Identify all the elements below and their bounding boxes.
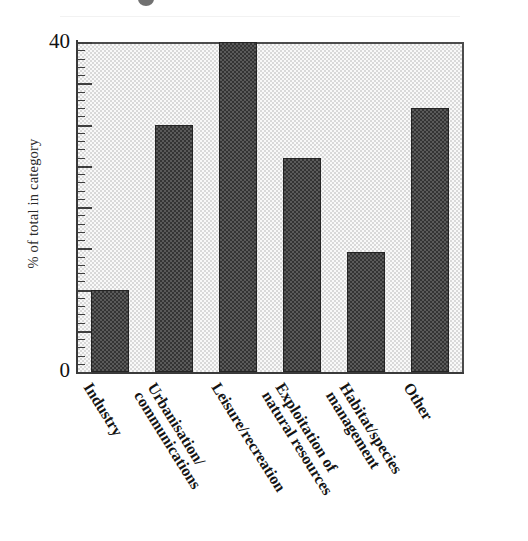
bar [283,158,321,373]
y-axis-title: % of total in category [25,109,42,299]
x-axis-tick-labels: IndustryUrbanisation/communicationsLeisu… [0,376,528,541]
bar [347,252,385,372]
x-axis-label: Other [400,380,435,423]
bar [411,108,449,372]
x-axis-label: Urbanisation/communications [130,380,217,492]
x-axis-line [76,372,464,374]
page-artifact-glyph [138,0,154,6]
page-artifact-rule [60,16,460,17]
x-axis-label: Industry [80,380,125,439]
bar-series [78,42,462,372]
bar [155,125,193,373]
bar [91,290,129,373]
figure-container: 40 0 % of total in category IndustryUrba… [0,0,528,541]
x-axis-label-line1: Industry [80,379,126,439]
y-tick-label-40: 40 [49,31,70,52]
y-axis-major-tick [78,372,92,374]
x-axis-label-line1: Other [400,379,436,423]
bar [219,42,257,372]
